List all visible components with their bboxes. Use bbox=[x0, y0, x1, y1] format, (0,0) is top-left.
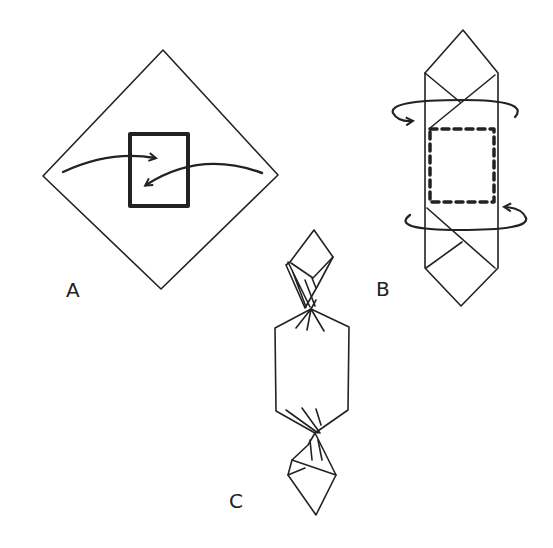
cloth-outline bbox=[425, 30, 498, 306]
top-fold-1 bbox=[425, 73, 460, 102]
panel-c bbox=[275, 230, 349, 515]
label-b: B bbox=[376, 279, 390, 299]
diagram-canvas bbox=[0, 0, 553, 548]
fold-arrow-left bbox=[63, 156, 155, 172]
box-dashed bbox=[430, 129, 494, 202]
twist-arrow-bottom bbox=[406, 207, 527, 230]
cloth-diamond bbox=[43, 50, 278, 289]
top-ear bbox=[286, 230, 333, 308]
twist-arrow-top bbox=[393, 100, 518, 121]
label-a: A bbox=[66, 280, 80, 300]
bottom-ear bbox=[288, 433, 336, 515]
panel-a bbox=[43, 50, 278, 289]
fold-arrow-right bbox=[146, 164, 262, 185]
panel-b bbox=[393, 30, 527, 306]
label-c: C bbox=[229, 491, 243, 511]
candy-body bbox=[275, 309, 349, 433]
bottom-fold-2 bbox=[426, 242, 462, 268]
